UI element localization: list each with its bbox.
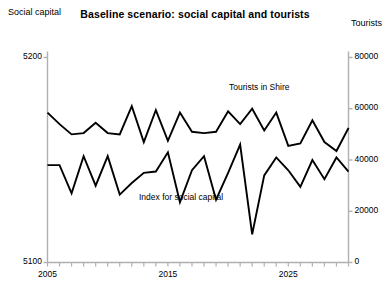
right-axis-tick-label: 80000 [355, 52, 379, 62]
series-label-social-capital: Index for social capital [139, 193, 223, 203]
right-axis-tick-label: 60000 [355, 103, 379, 113]
series-line [48, 145, 349, 235]
series-label-tourists: Tourists in Shire [229, 83, 289, 93]
right-axis-tick-label: 20000 [355, 206, 379, 216]
x-axis-tick-label: 2005 [32, 270, 64, 280]
x-axis-tick-label: 2025 [272, 270, 304, 280]
series-line [48, 106, 349, 151]
x-axis-tick-label: 2015 [152, 270, 184, 280]
right-axis-tick-label: 0 [355, 257, 360, 267]
right-axis-tick-label: 40000 [355, 155, 379, 165]
plot-canvas [0, 0, 390, 296]
left-axis-tick-label: 5200 [6, 52, 42, 62]
left-axis-tick-label: 5100 [6, 257, 42, 267]
chart-figure: Baseline scenario: social capital and to… [0, 0, 390, 296]
